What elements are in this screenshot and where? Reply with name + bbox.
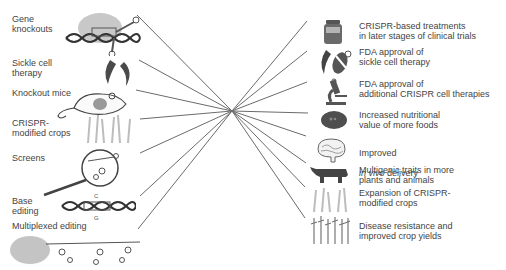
brain-icon [315, 137, 347, 163]
label-screens: Screens [12, 153, 45, 163]
connector-line [138, 111, 232, 229]
label-in-vivo-plain: Improved [359, 148, 397, 158]
label-fda-sickle-cell: FDA approval of sickle cell therapy [359, 47, 430, 67]
multiplex-guide-rna-icon [4, 230, 144, 270]
medicine-jar-icon [323, 19, 343, 45]
connector-line [232, 111, 308, 113]
crops-icon [310, 186, 350, 212]
label-sickle-cell-therapy: Sickle cell therapy [12, 58, 52, 78]
connector-line [232, 82, 307, 111]
wheat-field-icon [310, 216, 350, 244]
sickle-cells-approved-icon [318, 48, 356, 76]
crispr-timeline-diagram: Gene knockouts Sickle cell therapy Knock… [0, 0, 506, 270]
dna-base-edit-icon: C G [60, 190, 136, 222]
svg-text:C: C [94, 193, 99, 199]
connector-line [232, 111, 306, 136]
svg-text:G: G [94, 215, 99, 221]
connector-line [139, 60, 232, 111]
connector-line [140, 111, 232, 196]
label-multigenic-traits: Multigenic traits in more plants and ani… [359, 165, 454, 185]
connector-line [136, 90, 232, 111]
connector-line [232, 51, 307, 111]
crops-icon [82, 113, 136, 143]
tomato-icon [320, 110, 348, 130]
connector-line [232, 111, 305, 187]
label-clinical-trials: CRISPR-based treatments in later stages … [359, 21, 476, 41]
label-nutritional-value: Increased nutritional value of more food… [359, 110, 440, 130]
crispr-complex-dna-icon [62, 4, 142, 56]
label-disease-resistance: Disease resistance and improved crop yie… [359, 221, 453, 241]
label-gene-knockouts: Gene knockouts [12, 14, 53, 34]
cow-icon [310, 163, 350, 183]
label-expansion-crops: Expansion of CRISPR- modified crops [359, 188, 451, 208]
microscope-icon [323, 78, 349, 106]
label-fda-additional-therapies: FDA approval of additional CRISPR cell t… [359, 79, 490, 99]
label-base-editing: Base editing [12, 196, 39, 216]
connector-line [232, 111, 305, 218]
connector-line [232, 111, 306, 163]
connector-line [137, 15, 232, 111]
connector-line [232, 21, 307, 111]
